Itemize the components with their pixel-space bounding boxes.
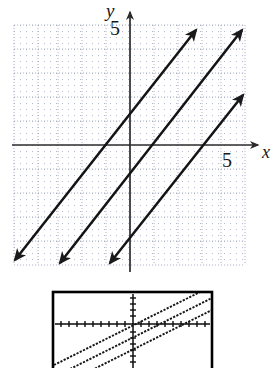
calculator-screen-panel: 10 −10 10 (0, 262, 277, 368)
x-axis-label: x (262, 143, 270, 161)
coordinate-plane-panel: y x 5 5 (0, 0, 277, 280)
figure-stage: y x 5 5 (0, 0, 277, 368)
x-axis-tick-label-5: 5 (222, 150, 232, 170)
calculator-screen-svg (0, 262, 277, 368)
y-axis-tick-label-5: 5 (110, 18, 120, 38)
coordinate-plane-svg (0, 0, 277, 280)
